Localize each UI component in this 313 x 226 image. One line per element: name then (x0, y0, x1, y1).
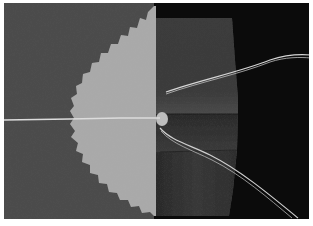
fabric-photo (0, 0, 313, 226)
thread-knot (156, 112, 168, 126)
right-fabric-panel (156, 18, 238, 216)
